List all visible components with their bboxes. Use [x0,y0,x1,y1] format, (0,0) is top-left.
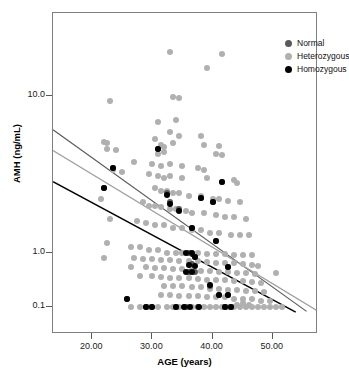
data-point [101,185,107,191]
y-axis-tick-label: 0.1 [5,300,45,310]
data-point [164,192,170,198]
legend: NormalHeterozygousHomozygous [285,37,349,76]
data-point [237,199,243,205]
data-point [204,259,210,265]
data-point [234,180,240,186]
data-point [167,275,173,281]
data-point [273,270,279,276]
data-point [179,163,185,169]
data-point [279,304,285,310]
x-axis-tick [151,333,152,339]
data-point [216,143,222,149]
data-point [222,251,228,257]
data-point [158,274,164,280]
data-point [155,304,161,310]
x-axis-tick [212,333,213,339]
data-point [216,292,222,298]
data-point [161,283,167,289]
data-point [110,165,116,171]
x-axis-tick-label: 30.00 [126,341,176,351]
data-point [137,244,143,250]
data-point [240,252,246,258]
data-point [204,251,210,257]
data-point [98,196,104,202]
data-point [198,133,204,139]
data-point [216,269,222,275]
data-point [231,214,237,220]
data-point [204,65,210,71]
data-point [201,167,207,173]
x-axis-tick-label: 40.00 [187,341,237,351]
data-point [176,95,182,101]
data-point [219,152,225,158]
data-point [213,277,219,283]
data-point [249,279,255,285]
data-point [176,275,182,281]
legend-item: Normal [285,37,349,50]
data-point [140,256,146,262]
data-point [187,304,193,310]
data-point [167,173,173,179]
data-point [149,304,155,310]
data-point [158,292,164,298]
data-point [186,275,192,281]
data-point [128,244,134,250]
x-axis-tick [91,333,92,339]
legend-label: Heterozygous [297,50,349,63]
data-point [213,238,219,244]
data-point [196,304,202,310]
data-point [173,117,179,123]
data-point [210,199,216,205]
data-point [176,208,182,214]
data-point [258,298,264,304]
data-point [104,146,110,152]
data-point [186,293,192,299]
data-point [234,287,240,293]
data-point [161,149,167,155]
data-point [219,51,225,57]
data-point [243,216,249,222]
data-point [137,273,143,279]
legend-item: Heterozygous [285,50,349,63]
data-point [167,201,173,207]
data-point [186,193,192,199]
data-point [225,269,231,275]
data-point [143,264,149,270]
data-point [176,258,182,264]
data-point [243,288,249,294]
data-point [252,271,258,277]
data-point [240,261,246,267]
data-point [158,163,164,169]
data-point [128,264,134,270]
data-point [161,265,167,271]
data-point [152,265,158,271]
data-point [170,266,176,272]
data-point [189,269,195,275]
data-point [158,204,164,210]
data-point [189,284,195,290]
data-point [167,257,173,263]
data-point [113,147,119,153]
data-point [149,256,155,262]
data-point [195,276,201,282]
data-point [225,198,231,204]
data-point [189,225,195,231]
data-point [176,190,182,196]
data-point [143,220,149,226]
data-point [237,232,243,238]
legend-label: Homozygous [297,63,347,76]
x-axis-tick [272,333,273,339]
legend-swatch-icon [285,66,292,73]
data-point [179,225,185,231]
legend-item: Homozygous [285,63,349,76]
data-point [225,264,231,270]
data-point [128,304,134,310]
data-point [134,218,140,224]
data-point [158,257,164,263]
data-point [155,146,161,152]
data-point [219,179,225,185]
data-point [240,278,246,284]
legend-swatch-icon [285,53,292,60]
data-point [213,251,219,257]
